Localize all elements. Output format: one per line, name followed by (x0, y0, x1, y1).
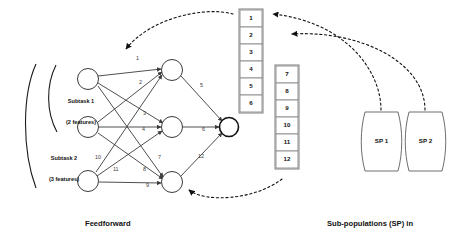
column-2-cell-11: 11 (276, 138, 298, 146)
output-node-1 (220, 118, 239, 137)
weight-label-2: 2 (139, 79, 142, 86)
subpopulation-caption-line1: Sub-populations (SP) in (327, 219, 452, 228)
weight-label-11: 11 (113, 166, 119, 173)
subtask-2-label-line2: (3 features) (33, 176, 95, 183)
column-1-cell-1: 1 (240, 14, 262, 22)
weight-label-8: 8 (143, 166, 146, 173)
column-2-cell-8: 8 (276, 87, 298, 95)
subtask-1-label-line2: (2 features) (53, 119, 109, 126)
feedforward-caption-line1: Feedforward (85, 219, 141, 228)
weight-column-2 (275, 65, 299, 169)
column-2-cell-9: 9 (276, 104, 298, 112)
hidden-layer-nodes (162, 60, 183, 193)
weight-label-9: 9 (146, 182, 149, 189)
sp-2-label: SP 2 (406, 137, 445, 145)
weight-column-1 (239, 9, 263, 113)
mapping-arrow-col1-to-hidden1 (126, 12, 233, 49)
column-1-cell-6: 6 (240, 99, 262, 107)
subtask-2-label-line1: Subtask 2 (33, 155, 95, 162)
weight-label-12: 12 (198, 153, 204, 160)
weight-label-3: 3 (143, 110, 146, 117)
subtask-1-label-line1: Subtask 1 (53, 98, 109, 105)
subtask-1-label: Subtask 1 (2 features) (53, 84, 109, 140)
weight-label-6: 6 (202, 126, 205, 133)
column-1-cell-4: 4 (240, 65, 262, 73)
diagram-page: Subtask 1 (2 features) Subtask 2 (3 feat… (0, 0, 471, 237)
column-2-cell-10: 10 (276, 121, 298, 129)
weight-label-5: 5 (200, 82, 203, 89)
mapping-arrow-sp2-to-col1 (292, 34, 425, 110)
mapping-arrow-col2-to-hidden3 (189, 179, 282, 198)
column-1-cell-3: 3 (240, 48, 262, 56)
subtask-2-label: Subtask 2 (3 features) (33, 141, 95, 197)
hidden-node-1 (162, 60, 183, 81)
weight-label-7: 7 (158, 154, 161, 161)
feedforward-caption: Feedforward Neural Network (85, 200, 141, 237)
hidden-node-2 (162, 117, 183, 138)
output-layer-nodes (220, 118, 239, 137)
weight-label-4: 4 (142, 126, 145, 133)
weight-label-1: 1 (136, 55, 139, 62)
column-1-cell-5: 5 (240, 82, 262, 90)
column-2-cell-7: 7 (276, 70, 298, 78)
subpopulation-caption: Sub-populations (SP) in Coevolutionary m… (327, 200, 452, 237)
column-1-cell-2: 2 (240, 31, 262, 39)
weight-label-10: 10 (95, 154, 101, 161)
column-2-cell-12: 12 (276, 155, 298, 163)
hidden-node-3 (162, 172, 183, 193)
sp-1-label: SP 1 (362, 137, 401, 145)
